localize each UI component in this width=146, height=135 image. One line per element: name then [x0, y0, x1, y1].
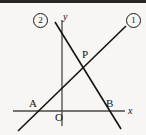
- line-1-stroke: [18, 26, 126, 131]
- line-marker-2: 2: [33, 13, 48, 28]
- x-axis-label: x: [128, 106, 132, 116]
- figure-drawing-canvas: [0, 0, 146, 135]
- point-label-a: A: [29, 98, 37, 109]
- line-marker-1: 1: [126, 13, 141, 28]
- origin-label: O: [55, 112, 63, 123]
- point-label-b: B: [106, 98, 113, 109]
- point-label-p: P: [82, 49, 88, 60]
- math-figure-coordinate-lines: x y O A B P 1 2: [0, 0, 146, 135]
- y-axis-label: y: [63, 12, 67, 22]
- line-2-stroke: [55, 22, 121, 129]
